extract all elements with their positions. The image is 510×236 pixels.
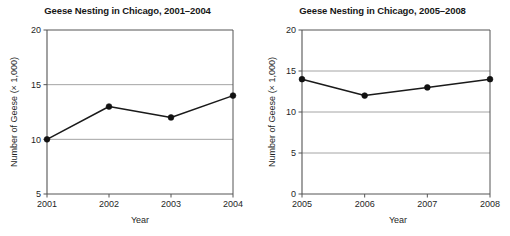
y-tick-label: 10 — [31, 135, 41, 145]
x-tick-label: 2001 — [37, 199, 57, 209]
data-markers-left — [44, 93, 236, 143]
x-axis-label-left: Year — [131, 215, 149, 225]
data-point-marker — [230, 93, 236, 99]
data-point-marker — [362, 93, 368, 99]
chart-plot-right: 05101520 2005200620072008 Year Number of… — [255, 0, 510, 236]
data-line-right — [302, 79, 490, 95]
x-tick-label: 2005 — [292, 199, 312, 209]
y-tick-label: 5 — [36, 189, 41, 199]
y-axis-label-left: Number of Geese (× 1,000) — [9, 57, 19, 167]
y-tick-label: 20 — [31, 25, 41, 35]
x-ticks-right: 2005200620072008 — [292, 194, 500, 209]
y-ticks-left: 5101520 — [31, 25, 47, 199]
x-tick-label: 2007 — [417, 199, 437, 209]
y-tick-label: 15 — [31, 80, 41, 90]
y-tick-label: 15 — [286, 66, 296, 76]
data-point-marker — [106, 104, 112, 110]
x-tick-label: 2008 — [480, 199, 500, 209]
data-point-marker — [44, 136, 50, 142]
y-tick-label: 20 — [286, 25, 296, 35]
figure-two-line-charts: Geese Nesting in Chicago, 2001–2004 5101… — [0, 0, 510, 236]
data-point-marker — [168, 115, 174, 121]
y-axis-label-right: Number of Geese (× 1,000) — [267, 57, 277, 167]
x-tick-label: 2004 — [223, 199, 243, 209]
x-tick-label: 2006 — [355, 199, 375, 209]
data-point-marker — [299, 76, 305, 82]
y-tick-label: 0 — [291, 189, 296, 199]
y-tick-label: 5 — [291, 148, 296, 158]
data-markers-right — [299, 76, 493, 98]
y-tick-label: 10 — [286, 107, 296, 117]
data-point-marker — [487, 76, 493, 82]
data-line-left — [47, 96, 233, 140]
chart-panel-right: Geese Nesting in Chicago, 2005–2008 0510… — [255, 0, 510, 236]
x-tick-label: 2003 — [161, 199, 181, 209]
x-axis-label-right: Year — [389, 215, 407, 225]
chart-panel-left: Geese Nesting in Chicago, 2001–2004 5101… — [0, 0, 255, 236]
x-tick-label: 2002 — [99, 199, 119, 209]
chart-plot-left: 5101520 2001200220032004 Year Number of … — [0, 0, 255, 236]
x-ticks-left: 2001200220032004 — [37, 194, 243, 209]
data-point-marker — [424, 85, 430, 91]
y-ticks-right: 05101520 — [286, 25, 302, 199]
